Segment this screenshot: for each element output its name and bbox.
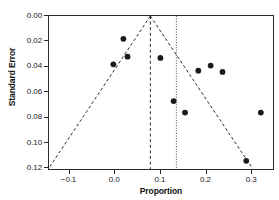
x-tick-label: −0.1 bbox=[49, 175, 89, 184]
funnel-left-limit bbox=[50, 16, 150, 167]
y-tick-label: 0.10 bbox=[27, 138, 42, 147]
data-point bbox=[208, 63, 214, 69]
data-point bbox=[171, 98, 177, 104]
x-tick-mark bbox=[251, 170, 252, 174]
data-point bbox=[125, 54, 131, 60]
y-axis-title: Standard Error bbox=[7, 32, 17, 122]
x-tick-mark bbox=[206, 170, 207, 174]
data-point bbox=[182, 110, 188, 116]
vertical-reference-lines bbox=[150, 16, 176, 170]
y-tick-label-wrap: 0.02 bbox=[0, 36, 42, 45]
x-tick-label: 0.1 bbox=[140, 175, 180, 184]
data-point bbox=[121, 36, 127, 42]
funnel-right-limit bbox=[150, 16, 251, 167]
x-tick-mark bbox=[114, 170, 115, 174]
y-tick-label-wrap: 0.12 bbox=[0, 163, 42, 172]
y-tick-label-wrap: 0.04 bbox=[0, 61, 42, 70]
x-axis-title: Proportion bbox=[48, 186, 274, 196]
plot-canvas bbox=[49, 16, 274, 170]
y-tick-label: 0.04 bbox=[27, 61, 42, 70]
plot-area bbox=[48, 15, 274, 170]
x-tick-label: 0.3 bbox=[231, 175, 271, 184]
x-tick-label: 0.0 bbox=[94, 175, 134, 184]
data-point bbox=[195, 68, 201, 74]
y-tick-label-wrap: 0.00 bbox=[0, 11, 42, 20]
x-tick-mark bbox=[160, 170, 161, 174]
y-tick-label-wrap: 0.10 bbox=[0, 138, 42, 147]
data-point bbox=[220, 69, 226, 75]
x-tick-label: 0.2 bbox=[186, 175, 226, 184]
y-tick-label: 0.08 bbox=[27, 112, 42, 121]
funnel-plot-figure: Standard Error 0.000.020.040.060.080.100… bbox=[0, 0, 279, 200]
data-point bbox=[258, 110, 264, 116]
y-tick-label: 0.12 bbox=[27, 163, 42, 172]
y-tick-label: 0.06 bbox=[27, 87, 42, 96]
x-tick-mark bbox=[69, 170, 70, 174]
y-tick-label-wrap: 0.08 bbox=[0, 112, 42, 121]
y-tick-label: 0.00 bbox=[27, 11, 42, 20]
y-tick-label: 0.02 bbox=[27, 36, 42, 45]
data-point bbox=[110, 61, 116, 67]
data-point bbox=[158, 55, 164, 61]
data-point-group bbox=[110, 36, 263, 164]
data-point bbox=[243, 158, 249, 164]
y-tick-label-wrap: 0.06 bbox=[0, 87, 42, 96]
